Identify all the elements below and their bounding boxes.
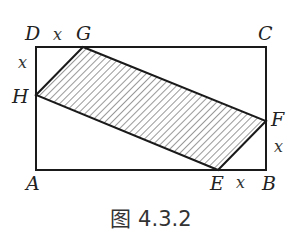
label-bf-x: x (274, 137, 283, 156)
label-dg-x: x (53, 25, 62, 44)
shaded-parallelogram-efgh (36, 47, 266, 170)
label-h: H (11, 85, 29, 107)
label-g: G (76, 22, 91, 44)
label-c: C (258, 22, 273, 44)
label-d: D (24, 22, 40, 44)
label-dh-x: x (18, 53, 27, 72)
figure-4-3-2: D G C H F A E B x x x x 图 4.3.2 (0, 0, 302, 245)
label-e: E (209, 172, 224, 194)
label-f: F (270, 108, 285, 130)
label-eb-x: x (236, 173, 245, 192)
figure-caption: 图 4.3.2 (0, 202, 302, 232)
label-b: B (261, 172, 276, 194)
label-a: A (24, 172, 40, 194)
